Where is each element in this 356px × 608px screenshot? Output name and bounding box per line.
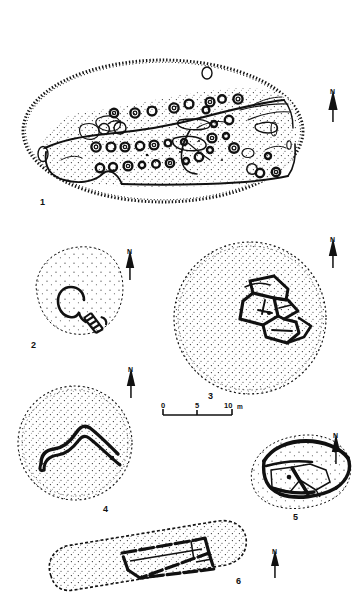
panel-label-1: 1 xyxy=(40,198,45,207)
panel-label-4: 4 xyxy=(103,505,108,514)
north-label-panel-5: N xyxy=(333,432,338,439)
panel-4-drawing xyxy=(18,386,132,500)
panel-label-3: 3 xyxy=(208,392,213,401)
panel-6-drawing xyxy=(49,521,246,591)
scale-tick-10: 10 xyxy=(224,402,232,410)
north-label-panel-1: N xyxy=(330,88,335,95)
north-label-panel-6: N xyxy=(272,548,277,555)
panel-label-6: 6 xyxy=(236,577,241,586)
north-label-panel-3: N xyxy=(330,236,335,243)
panel-3-drawing xyxy=(174,242,326,394)
scale-tick-5: 5 xyxy=(195,402,199,410)
site-plan-drawing xyxy=(0,0,356,608)
north-label-panel-4: N xyxy=(128,366,133,373)
north-label-panel-2: N xyxy=(127,248,132,255)
panel-5-find-spot xyxy=(287,475,292,480)
panel-1-drawing xyxy=(23,60,303,202)
scale-tick-0: 0 xyxy=(161,402,165,410)
scale-unit-label: m xyxy=(237,404,243,411)
panel-label-2: 2 xyxy=(31,341,36,350)
panel-label-5: 5 xyxy=(293,513,298,522)
panel-2-drawing xyxy=(36,247,123,335)
figure-root: 1 2 3 4 5 6 N N N N N N 0 5 10 m xyxy=(0,0,356,608)
